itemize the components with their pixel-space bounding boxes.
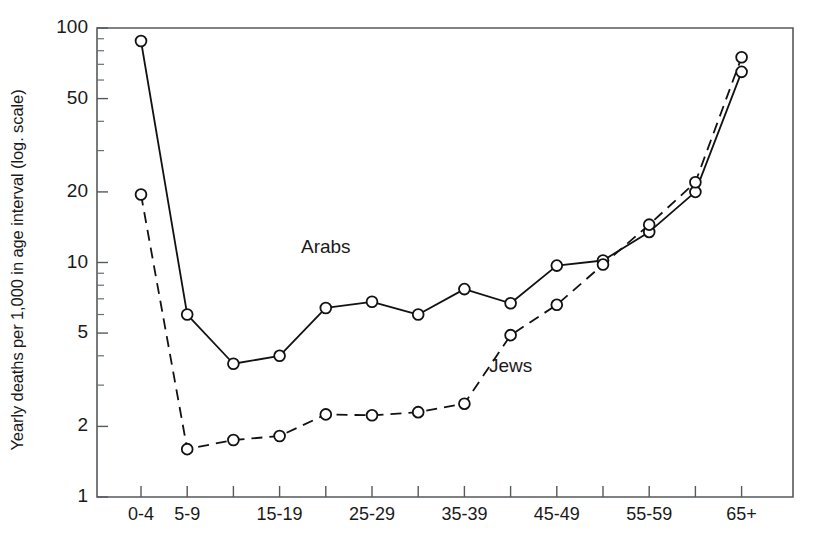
x-tick-label: 35-39 [441,504,487,524]
data-point-jews [367,410,378,421]
y-axis-tick-labels: 125102050100 [56,16,88,506]
chart-figure: Yearly deaths per 1,000 in age interval … [0,0,817,540]
series-markers [136,36,747,455]
x-tick-label: 5-9 [174,504,200,524]
data-point-jews [274,431,285,442]
data-point-arabs [274,350,285,361]
y-tick-label: 5 [77,321,88,342]
y-tick-label: 2 [77,414,88,435]
x-tick-label: 45-49 [534,504,580,524]
data-point-jews [320,409,331,420]
data-point-jews [136,189,147,200]
data-point-jews [644,219,655,230]
data-point-jews [736,52,747,63]
series-line-jews [141,57,742,449]
y-tick-label: 50 [67,87,88,108]
data-point-arabs [413,309,424,320]
x-tick-label: 0-4 [128,504,154,524]
y-tick-label: 10 [67,251,88,272]
y-tick-label: 100 [56,16,88,37]
data-point-arabs [736,66,747,77]
x-tick-label: 25-29 [349,504,395,524]
data-point-jews [182,444,193,455]
y-tick-label: 1 [77,485,88,506]
series-lines [141,41,742,449]
data-point-jews [690,177,701,188]
data-point-arabs [551,260,562,271]
data-point-jews [459,398,470,409]
y-axis-ticks [97,28,108,497]
data-point-arabs [459,284,470,295]
x-tick-label: 55-59 [626,504,672,524]
x-tick-label: 15-19 [257,504,303,524]
data-point-arabs [320,303,331,314]
data-point-arabs [136,36,147,47]
data-point-jews [551,299,562,310]
data-point-arabs [367,296,378,307]
plot-frame [97,28,793,497]
data-point-jews [598,259,609,270]
data-point-jews [228,435,239,446]
data-point-arabs [182,309,193,320]
data-point-arabs [228,358,239,369]
x-axis-tick-labels: 0-45-915-1925-2935-3945-4955-5965+ [128,504,757,524]
y-tick-label: 20 [67,180,88,201]
x-tick-label: 65+ [726,504,757,524]
series-line-arabs [141,41,742,364]
series-annotation-arabs: Arabs [301,236,351,257]
data-point-arabs [505,298,516,309]
data-point-jews [413,407,424,418]
data-point-jews [505,330,516,341]
line-chart-plot: 125102050100 0-45-915-1925-2935-3945-495… [0,0,817,540]
series-annotation-jews: Jews [489,355,532,376]
x-axis-ticks [141,486,742,497]
